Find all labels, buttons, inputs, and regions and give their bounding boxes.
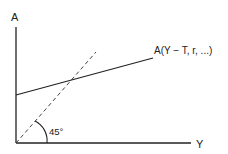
demand-curve	[16, 58, 153, 95]
angle-arc	[35, 121, 47, 143]
angle-label: 45°	[49, 126, 64, 137]
y-axis-label: A	[11, 11, 19, 23]
diagram-canvas: A Y A(Y − T, r, ...) 45°	[0, 0, 228, 154]
curve-label: A(Y − T, r, ...)	[154, 45, 212, 56]
x-axis-label: Y	[196, 138, 204, 150]
